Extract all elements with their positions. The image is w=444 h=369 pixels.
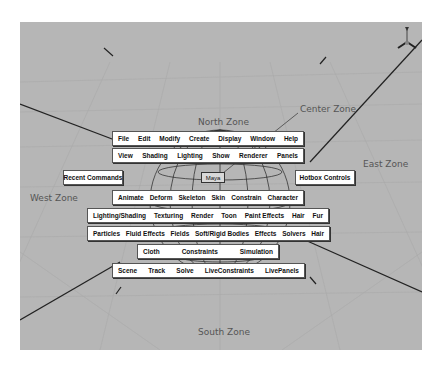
menu-cloth[interactable]: Cloth bbox=[143, 248, 160, 255]
menu-constraints[interactable]: Constraints bbox=[182, 248, 218, 255]
menu-track[interactable]: Track bbox=[148, 267, 165, 274]
menu-simulation[interactable]: Simulation bbox=[240, 248, 273, 255]
menu-shading[interactable]: Shading bbox=[142, 152, 168, 159]
viewport-grid bbox=[20, 22, 422, 350]
hotbox-controls-button[interactable]: Hotbox Controls bbox=[295, 170, 355, 185]
menu-paint-effects[interactable]: Paint Effects bbox=[245, 212, 284, 219]
menu-solve[interactable]: Solve bbox=[176, 267, 193, 274]
menu-skin[interactable]: Skin bbox=[212, 194, 226, 201]
menu-fur[interactable]: Fur bbox=[313, 212, 323, 219]
menu-renderer[interactable]: Renderer bbox=[239, 152, 268, 159]
cloth-menu-row: Cloth Constraints Simulation bbox=[137, 244, 279, 259]
animation-menu-row: Animate Deform Skeleton Skin Constrain C… bbox=[112, 190, 304, 205]
menu-solvers[interactable]: Solvers bbox=[282, 230, 306, 237]
menu-particles[interactable]: Particles bbox=[93, 230, 120, 237]
menu-render[interactable]: Render bbox=[191, 212, 213, 219]
menu-live-panels[interactable]: LivePanels bbox=[265, 267, 299, 274]
menu-modify[interactable]: Modify bbox=[159, 135, 180, 142]
east-zone-label: East Zone bbox=[363, 159, 408, 169]
west-zone-label: West Zone bbox=[30, 193, 78, 203]
center-zone-label: Center Zone bbox=[300, 104, 356, 114]
menu-soft-rigid-bodies[interactable]: Soft/Rigid Bodies bbox=[195, 230, 249, 237]
menu-display[interactable]: Display bbox=[218, 135, 241, 142]
3d-viewport[interactable]: North Zone Center Zone East Zone West Zo… bbox=[20, 22, 422, 350]
menu-view[interactable]: View bbox=[118, 152, 133, 159]
recent-commands-button[interactable]: Recent Commands bbox=[63, 170, 123, 185]
menu-fields[interactable]: Fields bbox=[170, 230, 189, 237]
menu-hair[interactable]: Hair bbox=[292, 212, 305, 219]
menu-texturing[interactable]: Texturing bbox=[154, 212, 183, 219]
dynamics-menu-row: Particles Fluid Effects Fields Soft/Rigi… bbox=[87, 226, 330, 241]
menu-deform[interactable]: Deform bbox=[150, 194, 173, 201]
menu-effects[interactable]: Effects bbox=[255, 230, 277, 237]
menu-file[interactable]: File bbox=[118, 135, 129, 142]
menu-panels[interactable]: Panels bbox=[277, 152, 298, 159]
menu-fluid-effects[interactable]: Fluid Effects bbox=[126, 230, 165, 237]
menu-help[interactable]: Help bbox=[284, 135, 298, 142]
menu-edit[interactable]: Edit bbox=[138, 135, 150, 142]
menu-hair-dynamics[interactable]: Hair bbox=[311, 230, 324, 237]
view-axis-icon bbox=[394, 24, 420, 54]
main-menu-row: File Edit Modify Create Display Window H… bbox=[112, 131, 304, 146]
menu-character[interactable]: Character bbox=[268, 194, 298, 201]
menu-scene[interactable]: Scene bbox=[118, 267, 137, 274]
north-zone-label: North Zone bbox=[198, 117, 249, 127]
menu-create[interactable]: Create bbox=[189, 135, 209, 142]
menu-toon[interactable]: Toon bbox=[221, 212, 236, 219]
live-menu-row: Scene Track Solve LiveConstraints LivePa… bbox=[112, 263, 305, 278]
menu-window[interactable]: Window bbox=[250, 135, 275, 142]
menu-skeleton[interactable]: Skeleton bbox=[178, 194, 205, 201]
south-zone-label: South Zone bbox=[198, 327, 250, 337]
rendering-menu-row: Lighting/Shading Texturing Render Toon P… bbox=[87, 208, 329, 223]
menu-lighting[interactable]: Lighting bbox=[177, 152, 203, 159]
panel-menu-row: View Shading Lighting Show Renderer Pane… bbox=[112, 148, 304, 163]
menu-live-constraints[interactable]: LiveConstraints bbox=[205, 267, 254, 274]
menu-show[interactable]: Show bbox=[212, 152, 229, 159]
menu-animate[interactable]: Animate bbox=[118, 194, 144, 201]
menu-lighting-shading[interactable]: Lighting/Shading bbox=[93, 212, 146, 219]
menu-constrain[interactable]: Constrain bbox=[231, 194, 261, 201]
maya-center-button[interactable]: Maya bbox=[201, 172, 225, 183]
